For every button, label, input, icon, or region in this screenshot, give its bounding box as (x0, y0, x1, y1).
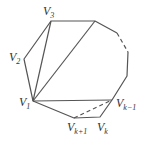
polygon-diagram: V3 V2 V1 Vk−1 Vk+1 Vk (0, 0, 146, 147)
label-vk-minus-1: Vk−1 (116, 97, 136, 112)
label-vk: Vk (97, 121, 108, 136)
diagonal-v1-vk-1 (33, 100, 112, 101)
label-v1: V1 (19, 96, 30, 111)
label-vk-plus-1: Vk+1 (67, 121, 87, 136)
edge-dashed-top-right (117, 33, 128, 52)
label-v3: V3 (43, 5, 54, 20)
label-v2: V2 (9, 51, 20, 66)
